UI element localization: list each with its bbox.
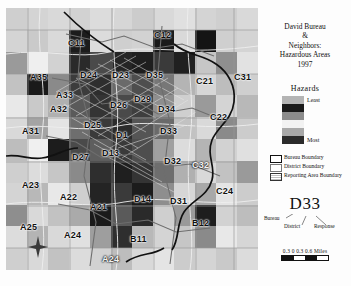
area-label-a21[interactable]: A21 — [90, 202, 107, 212]
area-label-a25[interactable]: A25 — [20, 222, 37, 232]
area-label-d25[interactable]: D25 — [84, 120, 101, 130]
scale-segment — [282, 256, 294, 260]
area-label-c32[interactable]: C32 — [192, 160, 209, 170]
area-label-b11[interactable]: B11 — [130, 234, 147, 244]
area-label-a33[interactable]: A33 — [56, 90, 73, 100]
legend-item-reporting-area-boundary: Reporting Area Boundary — [270, 172, 348, 181]
map-figure: C11C12A35D24D23D35C21C31A33A32D26D29D34C… — [0, 0, 351, 286]
area-label-d35[interactable]: D35 — [146, 70, 163, 80]
scale-values: 0.3 0 0.3 0.6 — [283, 248, 313, 254]
code-example: D33 — [262, 194, 348, 214]
area-label-b12[interactable]: B12 — [192, 218, 209, 228]
title-line-3: Neighbors: — [262, 41, 348, 50]
area-label-d29[interactable]: D29 — [134, 94, 151, 104]
area-label-d24[interactable]: D24 — [80, 70, 97, 80]
area-label-d1[interactable]: D1 — [116, 130, 128, 140]
bureau-boundary-swatch — [270, 155, 282, 163]
area-label-d31[interactable]: D31 — [170, 196, 187, 206]
scale-units: Miles — [314, 248, 327, 254]
reporting-area-boundary-label: Reporting Area Boundary — [284, 172, 348, 179]
legend-item-district-boundary: District Boundary — [270, 163, 348, 172]
district-boundary-label: District Boundary — [284, 163, 348, 170]
ramp-swatch — [282, 104, 304, 112]
ramp-least-label: Least — [307, 97, 320, 103]
ramp-swatch — [282, 128, 304, 136]
area-label-c12[interactable]: C12 — [154, 30, 171, 40]
district-boundary-swatch — [270, 164, 282, 172]
area-label-a35[interactable]: A35 — [30, 72, 47, 82]
north-arrow-icon — [28, 236, 48, 258]
code-part-bureau: Bureau — [264, 215, 280, 221]
ramp-swatch — [282, 120, 304, 128]
reporting-area-boundary-swatch — [270, 173, 282, 181]
ramp-most-label: Most — [307, 137, 319, 143]
area-label-d27[interactable]: D27 — [72, 152, 89, 162]
legend-item-bureau-boundary: Bureau Boundary — [270, 154, 348, 163]
choropleth-map[interactable]: C11C12A35D24D23D35C21C31A33A32D26D29D34C… — [6, 8, 258, 270]
area-label-c24[interactable]: C24 — [216, 186, 233, 196]
area-label-d34[interactable]: D34 — [158, 104, 175, 114]
area-label-a23[interactable]: A23 — [22, 180, 39, 190]
area-label-c22[interactable]: C22 — [210, 112, 227, 122]
area-label-d33[interactable]: D33 — [160, 126, 177, 136]
hazards-color-ramp — [282, 96, 304, 144]
area-label-d13[interactable]: D13 — [102, 148, 119, 158]
scale-segment — [294, 256, 306, 260]
ramp-swatch — [282, 136, 304, 144]
code-part-response: Response — [314, 223, 335, 229]
map-vector-overlay — [6, 8, 258, 270]
area-label-d14[interactable]: D14 — [134, 194, 151, 204]
code-explainer: D33 Bureau District Response — [262, 194, 348, 236]
area-label-a32[interactable]: A32 — [50, 104, 67, 114]
ramp-swatch — [282, 112, 304, 120]
area-label-d23[interactable]: D23 — [112, 70, 129, 80]
scale-bar: 0.3 0 0.3 0.6 Miles — [262, 248, 348, 261]
area-label-a31[interactable]: A31 — [22, 126, 39, 136]
area-label-a24[interactable]: A24 — [64, 230, 81, 240]
code-parts: Bureau District Response — [262, 214, 348, 236]
map-title: David Bureau & Neighbors: Hazardous Area… — [262, 22, 348, 69]
bureau-boundary-label: Bureau Boundary — [284, 154, 348, 161]
boundary-legend: Bureau Boundary District Boundary Report… — [270, 154, 348, 181]
title-line-2: & — [262, 31, 348, 40]
title-line-1: David Bureau — [262, 22, 348, 31]
area-label-d26[interactable]: D26 — [110, 100, 127, 110]
title-line-5: 1997 — [262, 60, 348, 69]
scale-numbers: 0.3 0 0.3 0.6 Miles — [262, 248, 348, 254]
legend-panel: David Bureau & Neighbors: Hazardous Area… — [262, 8, 348, 270]
scale-segment — [305, 256, 317, 260]
scale-bar-graphic — [281, 255, 329, 261]
area-label-a24[interactable]: A24 — [102, 254, 119, 264]
area-label-d32[interactable]: D32 — [164, 156, 181, 166]
hazards-legend-header: Hazards — [262, 84, 348, 93]
area-label-a22[interactable]: A22 — [60, 192, 77, 202]
ramp-swatch — [282, 96, 304, 104]
code-part-district: District — [284, 223, 300, 229]
area-label-c31[interactable]: C31 — [234, 72, 251, 82]
area-label-c21[interactable]: C21 — [196, 76, 213, 86]
title-line-4: Hazardous Areas — [262, 50, 348, 59]
scale-segment — [317, 256, 329, 260]
area-label-c11[interactable]: C11 — [68, 38, 85, 48]
